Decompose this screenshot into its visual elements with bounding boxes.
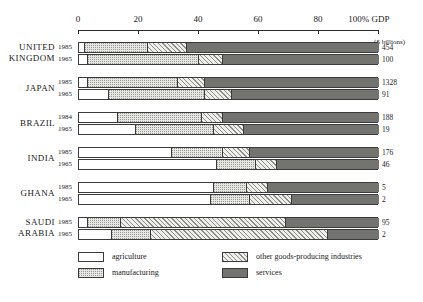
bar-row: 1985454 (0, 42, 423, 54)
bar-segment-other[interactable] (121, 218, 286, 227)
stacked-bar[interactable] (78, 54, 378, 65)
gdp-value-label: 188 (382, 112, 393, 123)
bar-segment-manufacturing[interactable] (118, 113, 202, 122)
stacked-bar[interactable] (78, 229, 378, 240)
stacked-bar[interactable] (78, 217, 378, 228)
bar-segment-services[interactable] (286, 218, 379, 227)
bar-segment-services[interactable] (223, 55, 379, 64)
bar-segment-agriculture[interactable] (79, 230, 112, 239)
gdp-value-label: 2 (382, 194, 386, 205)
axis-tick-20 (138, 30, 139, 34)
bar-segment-services[interactable] (205, 78, 379, 87)
axis-tick-40 (198, 30, 199, 34)
year-label: 1985 (40, 147, 72, 158)
bar-segment-manufacturing[interactable] (109, 90, 205, 99)
bar-row: 19652 (0, 194, 423, 206)
bar-segment-manufacturing[interactable] (211, 195, 250, 204)
bar-segment-services[interactable] (223, 113, 379, 122)
bar-segment-other[interactable] (148, 43, 187, 52)
bar-row: 1984188 (0, 112, 423, 124)
gdp-value-label: 91 (382, 89, 390, 100)
axis-tick-100 (378, 30, 379, 34)
stacked-bar[interactable] (78, 159, 378, 170)
bar-segment-services[interactable] (244, 125, 379, 134)
bar-segment-services[interactable] (250, 148, 379, 157)
stacked-bar[interactable] (78, 42, 378, 53)
chart-x-axis: 020406080100% GDP ($ billions) (0, 0, 423, 40)
year-label: 1985 (40, 217, 72, 228)
bar-segment-other[interactable] (256, 160, 277, 169)
legend-label-manufacturing: manufacturing (112, 268, 159, 278)
gdp-value-label: 95 (382, 217, 390, 228)
bar-segment-manufacturing[interactable] (214, 183, 247, 192)
gdp-value-label: 5 (382, 182, 386, 193)
gdp-value-label: 100 (382, 54, 393, 65)
country-group: SAUDIARABIA19859519652 (0, 217, 423, 243)
bar-segment-agriculture[interactable] (79, 183, 214, 192)
bar-segment-agriculture[interactable] (79, 113, 118, 122)
year-label: 1985 (40, 77, 72, 88)
bar-segment-agriculture[interactable] (79, 90, 109, 99)
year-label: 1965 (40, 194, 72, 205)
axis-tick-0 (78, 30, 79, 34)
bar-segment-manufacturing[interactable] (88, 78, 178, 87)
bar-row: 19652 (0, 229, 423, 241)
bar-segment-agriculture[interactable] (79, 125, 136, 134)
axis-tick-label-0: 0 (76, 15, 81, 24)
gdp-value-label: 46 (382, 159, 390, 170)
gdp-composition-chart: 020406080100% GDP ($ billions) UNITEDKIN… (0, 0, 423, 302)
bar-segment-manufacturing[interactable] (85, 43, 148, 52)
legend-label-agriculture: agriculture (112, 252, 147, 262)
gdp-value-label: 2 (382, 229, 386, 240)
bar-segment-manufacturing[interactable] (172, 148, 223, 157)
bar-segment-agriculture[interactable] (79, 148, 172, 157)
bar-segment-agriculture[interactable] (79, 78, 88, 87)
bar-segment-other[interactable] (250, 195, 292, 204)
stacked-bar[interactable] (78, 124, 378, 135)
bar-segment-services[interactable] (277, 160, 379, 169)
country-group: UNITEDKINGDOM19854541965100 (0, 42, 423, 68)
bar-row: 19855 (0, 182, 423, 194)
stacked-bar[interactable] (78, 194, 378, 205)
bar-segment-other[interactable] (151, 230, 328, 239)
bar-segment-services[interactable] (268, 183, 379, 192)
year-label: 1984 (40, 112, 72, 123)
bar-segment-manufacturing[interactable] (88, 55, 199, 64)
bar-segment-agriculture[interactable] (79, 218, 88, 227)
bar-row: 196519 (0, 124, 423, 136)
bar-segment-other[interactable] (223, 148, 250, 157)
bar-segment-services[interactable] (232, 90, 379, 99)
legend-swatch-other (222, 252, 248, 262)
axis-tick-label-20: 20 (134, 15, 143, 24)
axis-tick-80 (318, 30, 319, 34)
bar-segment-agriculture[interactable] (79, 55, 88, 64)
bar-segment-manufacturing[interactable] (217, 160, 256, 169)
bar-segment-other[interactable] (247, 183, 268, 192)
axis-tick-label-40: 40 (194, 15, 203, 24)
bar-segment-services[interactable] (187, 43, 379, 52)
bar-segment-services[interactable] (328, 230, 379, 239)
bar-segment-manufacturing[interactable] (136, 125, 214, 134)
stacked-bar[interactable] (78, 77, 378, 88)
axis-tick-60 (258, 30, 259, 34)
stacked-bar[interactable] (78, 147, 378, 158)
stacked-bar[interactable] (78, 182, 378, 193)
stacked-bar[interactable] (78, 89, 378, 100)
bar-segment-other[interactable] (214, 125, 244, 134)
axis-tick-label-80: 80 (314, 15, 323, 24)
bar-segment-other[interactable] (178, 78, 205, 87)
bar-segment-agriculture[interactable] (79, 195, 211, 204)
bar-segment-other[interactable] (205, 90, 232, 99)
axis-tick-label-100: 100% GDP (348, 15, 389, 24)
bar-segment-services[interactable] (292, 195, 379, 204)
year-label: 1985 (40, 42, 72, 53)
country-group: INDIA1985176196546 (0, 147, 423, 173)
bar-segment-manufacturing[interactable] (112, 230, 151, 239)
bar-segment-other[interactable] (202, 113, 223, 122)
country-group: BRAZIL1984188196519 (0, 112, 423, 138)
bar-segment-agriculture[interactable] (79, 160, 217, 169)
bar-segment-manufacturing[interactable] (88, 218, 121, 227)
bar-segment-other[interactable] (199, 55, 223, 64)
stacked-bar[interactable] (78, 112, 378, 123)
legend-swatch-manufacturing (78, 268, 104, 278)
